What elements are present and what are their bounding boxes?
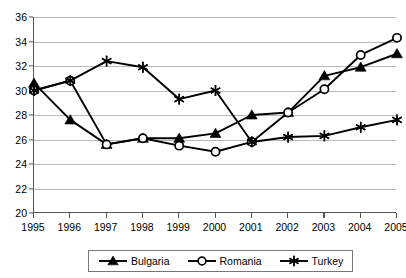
- x-axis-tick-label: 1995: [21, 221, 44, 234]
- y-axis-tick-label: 22: [15, 183, 27, 194]
- legend: BulgariaRomaniaTurkey: [88, 250, 353, 272]
- legend-marker-circle-open-icon: [187, 254, 217, 268]
- data-point-circle-open: [357, 51, 365, 59]
- legend-label: Bulgaria: [131, 256, 170, 267]
- x-axis: 1995199619971998199920002001200220032004…: [33, 221, 396, 237]
- y-axis-tick-label: 30: [15, 85, 27, 96]
- x-axis-tick-label: 2002: [275, 221, 298, 234]
- x-axis-tick: [323, 213, 324, 218]
- y-axis-tick-label: 32: [15, 61, 27, 72]
- x-axis-tick: [106, 213, 107, 218]
- legend-marker-triangle-icon: [98, 254, 128, 268]
- legend-item-turkey[interactable]: Turkey: [279, 254, 344, 268]
- x-axis-tick: [69, 213, 70, 218]
- legend-label: Turkey: [312, 256, 344, 267]
- x-axis-tick: [396, 213, 397, 218]
- x-axis-tick: [251, 213, 252, 218]
- x-axis-tick: [287, 213, 288, 218]
- y-axis-tick-label: 28: [15, 110, 27, 121]
- legend-item-bulgaria[interactable]: Bulgaria: [98, 254, 170, 268]
- x-axis-tick: [215, 213, 216, 218]
- data-point-triangle: [392, 49, 403, 58]
- x-axis-tick: [178, 213, 179, 218]
- data-point-circle-open: [103, 140, 111, 148]
- legend-marker-asterisk-icon: [279, 254, 309, 268]
- series-bulgaria: [29, 49, 403, 149]
- data-point-circle-open: [393, 34, 401, 42]
- x-axis-tick: [360, 213, 361, 218]
- y-axis-tick-label: 26: [15, 134, 27, 145]
- y-axis-tick-label: 24: [15, 159, 27, 170]
- x-axis-tick-label: 1999: [167, 221, 190, 234]
- legend-item-romania[interactable]: Romania: [187, 254, 262, 268]
- x-axis-ticks: [33, 213, 396, 219]
- y-axis: 202224262830323436: [0, 0, 33, 213]
- data-point-circle-open: [284, 108, 292, 116]
- plot-area: [33, 17, 396, 213]
- data-point-circle-open: [211, 148, 219, 156]
- y-axis-tick-label: 34: [15, 36, 27, 47]
- x-axis-tick-label: 1998: [130, 221, 153, 234]
- x-axis-tick: [142, 213, 143, 218]
- y-axis-tick-label: 36: [15, 12, 27, 23]
- legend-label: Romania: [220, 256, 262, 267]
- data-point-circle-open: [320, 85, 328, 93]
- y-axis-tick-label: 20: [15, 208, 27, 219]
- x-axis-tick-label: 1997: [94, 221, 117, 234]
- x-axis-tick-label: 2001: [239, 221, 262, 234]
- x-axis-tick: [33, 213, 34, 218]
- data-point-circle-open: [198, 257, 206, 265]
- data-point-triangle: [210, 128, 221, 137]
- line-chart: 202224262830323436 199519961997199819992…: [0, 0, 406, 278]
- x-axis-tick-label: 2005: [384, 221, 406, 234]
- x-axis-tick-label: 2003: [312, 221, 335, 234]
- x-axis-tick-label: 2000: [203, 221, 226, 234]
- series-layer: [34, 17, 397, 213]
- x-axis-tick-label: 1996: [58, 221, 81, 234]
- data-point-circle-open: [175, 142, 183, 150]
- x-axis-tick-label: 2004: [348, 221, 371, 234]
- data-point-circle-open: [139, 134, 147, 142]
